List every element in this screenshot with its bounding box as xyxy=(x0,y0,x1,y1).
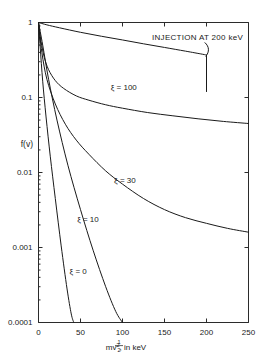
curve-xi-30 xyxy=(39,23,249,233)
injection-annotation-label: INJECTION AT 200 keV xyxy=(152,33,243,42)
x-tick-label-5: 250 xyxy=(242,328,256,337)
y-tick-label-2: 0.01 xyxy=(17,168,33,177)
injection-annotation-leader xyxy=(205,43,209,57)
y-tick-label-0: 1 xyxy=(28,18,33,27)
x-tick-label-3: 150 xyxy=(158,328,172,337)
x-tick-label-0: 0 xyxy=(36,328,41,337)
x-axis-title-body: mv2, in keV xyxy=(106,342,147,353)
x-tick-label-4: 200 xyxy=(200,328,214,337)
x-axis-title-suffix: , in keV xyxy=(120,343,147,352)
x-axis-tick-labels: 050100150200250 xyxy=(36,328,255,337)
curve-label-xi-100: ξ = 100 xyxy=(111,83,138,92)
figure-container: 10.10.010.0010.0001 050100150200250 f(v)… xyxy=(0,0,267,360)
y-axis-title: f(v) xyxy=(21,139,33,149)
curve-xi-10 xyxy=(39,23,123,323)
y-axis-tick-labels: 10.10.010.0010.0001 xyxy=(8,18,33,327)
curve-label-xi-0: ξ = 0 xyxy=(70,267,88,276)
curve-labels: ξ = 100ξ = 30ξ = 10ξ = 0 xyxy=(70,83,138,275)
data-curves xyxy=(39,23,249,323)
y-tick-label-4: 0.0001 xyxy=(8,318,33,327)
curve-label-xi-10: ξ = 10 xyxy=(77,215,99,224)
curve-label-xi-30: ξ = 30 xyxy=(114,176,136,185)
y-tick-label-3: 0.001 xyxy=(12,243,33,252)
x-axis-title-body-text: mv xyxy=(106,343,117,352)
x-tick-label-1: 50 xyxy=(76,328,85,337)
y-tick-label-1: 0.1 xyxy=(21,93,33,102)
semilog-plot: 10.10.010.0010.0001 050100150200250 f(v)… xyxy=(0,0,267,360)
x-axis-title: 1 2 mv2, in keV xyxy=(106,339,147,353)
curve-xi-0 xyxy=(39,23,74,323)
x-tick-label-2: 100 xyxy=(116,328,130,337)
